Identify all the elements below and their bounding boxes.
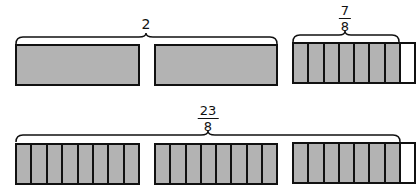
bar-cell-shaded [125, 145, 138, 183]
bar-cell-shaded [263, 145, 276, 183]
bar-cell-shaded [79, 145, 94, 183]
bottom-fraction-numerator: 23 [198, 104, 219, 119]
bar-cell-shaded [109, 145, 124, 183]
top-whole-label: 2 [142, 17, 151, 31]
bar-cell-empty [401, 44, 414, 82]
bar-cell-shaded [294, 44, 309, 82]
bar-cell-shaded [370, 44, 385, 82]
bottom-bar-3 [292, 142, 416, 184]
bottom-fraction-label: 23 8 [198, 104, 219, 133]
top-fraction-label: 7 8 [339, 4, 351, 33]
bar-cell-shaded [325, 44, 340, 82]
bar-cell-shaded [187, 145, 202, 183]
top-bar-whole-1 [15, 44, 140, 86]
top-bar-eighths [292, 42, 416, 84]
bar-cell-shaded [355, 44, 370, 82]
bottom-bar-1 [15, 143, 140, 185]
bar-cell-shaded [370, 144, 385, 182]
bar-cell-shaded [17, 145, 32, 183]
bar-cell-shaded [248, 145, 263, 183]
bar-cell-shaded [171, 145, 186, 183]
bar-cell-shaded [156, 145, 171, 183]
bar-cell-shaded [232, 145, 247, 183]
bar-cell-shaded [32, 145, 47, 183]
bar-cell-shaded [217, 145, 232, 183]
bar-cell-shaded [309, 144, 324, 182]
bar-cell-shaded [309, 44, 324, 82]
bar-cell-shaded [386, 44, 401, 82]
bar-cell-empty [401, 144, 414, 182]
bar-cell-shaded [202, 145, 217, 183]
bar-cell-shaded [340, 144, 355, 182]
top-fraction-numerator: 7 [339, 4, 351, 19]
bar-cell-shaded [355, 144, 370, 182]
bottom-bar-2 [154, 143, 278, 185]
bar-cell-shaded [63, 145, 78, 183]
bar-cell-shaded [340, 44, 355, 82]
top-bar-whole-2 [154, 44, 278, 86]
bar-cell-shaded [48, 145, 63, 183]
bar-cell-shaded [325, 144, 340, 182]
bar-cell-shaded [386, 144, 401, 182]
bar-cell-shaded [94, 145, 109, 183]
bar-cell-shaded [294, 144, 309, 182]
